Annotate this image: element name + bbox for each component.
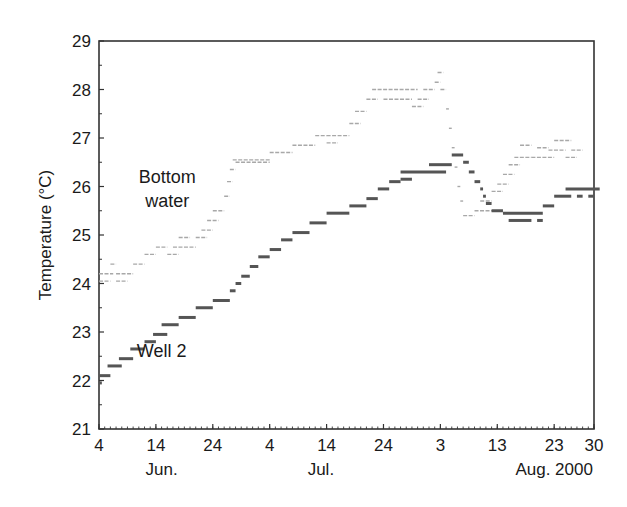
month-label: Jul. (308, 460, 334, 479)
y-tick-label: 24 (72, 275, 91, 294)
y-axis-title: Temperature (°C) (36, 170, 55, 301)
y-tick-label: 25 (72, 226, 91, 245)
month-label: Aug. 2000 (515, 460, 593, 479)
month-label: Jun. (146, 460, 178, 479)
x-tick-label: 14 (146, 436, 165, 455)
x-tick-label: 24 (374, 436, 393, 455)
x-tick-label: 24 (203, 436, 222, 455)
y-tick-label: 28 (72, 81, 91, 100)
y-tick-label: 29 (72, 32, 91, 51)
bottom-water-label-line2: water (144, 191, 189, 211)
x-tick-label: 14 (317, 436, 336, 455)
y-tick-label: 23 (72, 323, 91, 342)
x-tick-label: 30 (585, 436, 604, 455)
temperature-chart: 212223242526272829 41424414243132330 Jun… (0, 0, 627, 507)
month-labels: Jun.Jul.Aug. 2000 (146, 460, 593, 479)
y-tick-label: 21 (72, 420, 91, 439)
x-tick-label: 3 (436, 436, 445, 455)
bottom-water-label-line1: Bottom (139, 167, 196, 187)
x-tick-label: 23 (545, 436, 564, 455)
x-tick-label: 13 (488, 436, 507, 455)
y-tick-label: 27 (72, 129, 91, 148)
x-tick-label: 4 (265, 436, 274, 455)
y-tick-label: 22 (72, 372, 91, 391)
x-tick-label: 4 (94, 436, 103, 455)
plot-frame (99, 41, 594, 429)
well-2-label: Well 2 (137, 341, 187, 361)
y-tick-label: 26 (72, 178, 91, 197)
